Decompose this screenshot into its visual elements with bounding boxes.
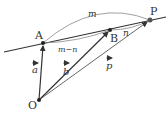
label-arc-m: m bbox=[88, 9, 97, 19]
label-vector-a: a bbox=[32, 63, 38, 75]
point-P bbox=[148, 18, 153, 23]
label-O: O bbox=[28, 99, 37, 112]
label-P: P bbox=[150, 5, 158, 18]
label-vector-b: b bbox=[63, 63, 69, 77]
label-vector-p: p bbox=[106, 58, 113, 71]
svg-text:p: p bbox=[106, 60, 113, 71]
label-arc-m-minus-n: m−n bbox=[58, 45, 77, 54]
label-A: A bbox=[34, 29, 44, 42]
svg-text:a: a bbox=[32, 64, 38, 75]
vector-a bbox=[39, 46, 43, 100]
label-arc-n: n bbox=[123, 28, 129, 38]
vector-diagram: O A B P m m−n n a b p bbox=[0, 0, 168, 119]
label-B: B bbox=[110, 32, 118, 45]
svg-text:b: b bbox=[63, 66, 69, 77]
point-O bbox=[37, 98, 41, 102]
line-ABP bbox=[4, 17, 166, 52]
